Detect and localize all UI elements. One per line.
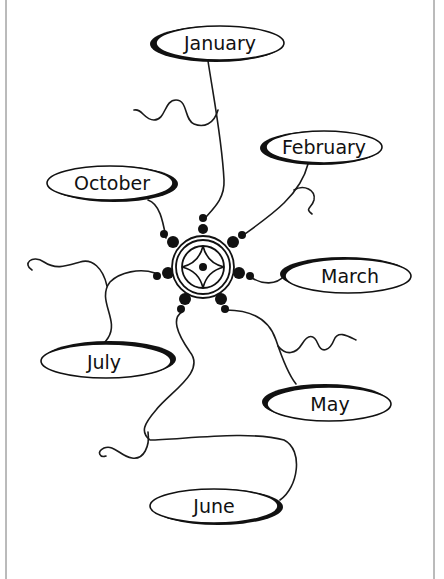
squiggle-june xyxy=(100,432,149,458)
connector-july xyxy=(102,271,155,344)
node-october: October xyxy=(47,166,178,202)
months-mind-map: January February October March July May … xyxy=(0,0,444,579)
node-may: May xyxy=(262,384,391,421)
node-label-may: May xyxy=(310,393,349,415)
node-march: March xyxy=(280,257,411,293)
compass-star-icon xyxy=(153,214,254,313)
node-january: January xyxy=(150,26,284,62)
node-february: February xyxy=(260,131,382,165)
connector-may xyxy=(226,310,296,384)
connector-february xyxy=(242,164,308,236)
node-label-february: February xyxy=(282,136,366,158)
node-label-march: March xyxy=(321,265,379,287)
connector-march xyxy=(252,275,285,283)
squiggle-july xyxy=(28,259,107,286)
node-label-october: October xyxy=(74,172,150,194)
squiggle-february xyxy=(294,188,314,214)
node-label-january: January xyxy=(183,32,256,54)
squiggle-january xyxy=(134,100,218,125)
squiggle-may xyxy=(278,335,356,353)
node-july: July xyxy=(41,341,176,378)
node-label-july: July xyxy=(86,351,121,373)
node-label-june: June xyxy=(192,495,234,517)
connector-january xyxy=(205,61,224,218)
node-june: June xyxy=(150,489,283,525)
